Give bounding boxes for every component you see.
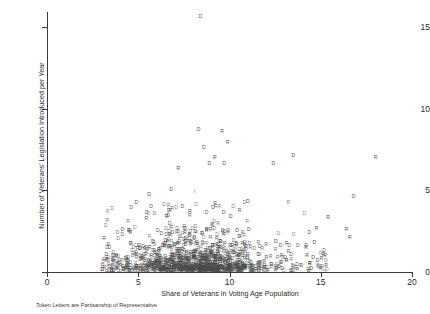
data-point-token: R — [305, 254, 309, 259]
data-point-token: D — [229, 215, 233, 220]
data-point-token: D — [168, 222, 172, 227]
data-point-token: R — [186, 257, 190, 262]
data-point-token: D — [115, 230, 119, 235]
data-point-token: D — [311, 255, 315, 260]
data-point-token: D — [208, 162, 212, 167]
data-point-token: D — [162, 202, 166, 207]
data-point-token: D — [320, 264, 324, 269]
x-tick-label: 0 — [45, 277, 50, 287]
plot-area: DRDRDDDDDDDRRRRDDRDRRRDDDDRDRDDDDRRDRDRR… — [47, 10, 413, 272]
data-point-token: D — [271, 162, 275, 167]
data-point-token: R — [287, 249, 291, 254]
data-point-token: R — [145, 217, 149, 222]
data-point-token: D — [288, 243, 292, 248]
data-point-token: D — [106, 258, 110, 263]
data-point-token: D — [256, 253, 260, 258]
data-point-token: D — [168, 265, 172, 270]
data-point-token: R — [223, 241, 227, 246]
data-point-token: D — [198, 15, 202, 20]
data-point-token: R — [184, 242, 188, 247]
data-point-token: R — [284, 259, 288, 264]
data-point-token: I — [194, 189, 195, 194]
data-point-token: D — [101, 259, 105, 264]
data-point-token: D — [214, 253, 218, 258]
x-axis-title: Share of Veterans in Voting Age Populati… — [47, 289, 413, 298]
data-point-token: R — [172, 243, 176, 248]
data-point-token: R — [374, 155, 378, 160]
data-token-layer: DRDRDDDDDDDRRRRDDRDRRRDDDDRDRDDDDRRDRDRR… — [47, 10, 413, 272]
data-point-token: D — [129, 205, 133, 210]
data-point-token: R — [276, 255, 280, 260]
data-point-token: R — [274, 247, 278, 252]
data-point-token: D — [265, 266, 269, 271]
data-point-token: R — [196, 243, 200, 248]
data-point-token: R — [213, 155, 217, 160]
data-point-token: R — [177, 167, 181, 172]
data-point-token: D — [253, 246, 257, 251]
data-point-token: D — [104, 224, 108, 229]
data-point-token: D — [117, 261, 121, 266]
data-point-token: D — [246, 199, 250, 204]
data-point-token: R — [231, 243, 235, 248]
data-point-token: R — [102, 236, 106, 241]
data-point-token: R — [126, 219, 130, 224]
data-point-token: R — [290, 258, 294, 263]
data-point-token: D — [121, 228, 125, 233]
data-point-token: D — [212, 226, 216, 231]
data-point-token: D — [352, 194, 356, 199]
data-point-token: D — [218, 257, 222, 262]
data-point-token: R — [147, 234, 151, 239]
data-point-token: D — [231, 205, 235, 210]
data-point-token: D — [133, 226, 137, 231]
data-point-token: R — [220, 129, 224, 134]
data-point-token: D — [226, 229, 230, 234]
data-point-token: R — [209, 235, 213, 240]
data-point-token: R — [115, 266, 119, 271]
data-point-token: D — [247, 227, 251, 232]
data-point-token: D — [153, 212, 157, 217]
data-point-token: R — [245, 220, 249, 225]
data-point-token: R — [209, 252, 213, 257]
data-point-token: D — [292, 154, 296, 159]
data-point-token: D — [307, 231, 311, 236]
x-tick-label: 15 — [316, 277, 325, 287]
data-point-token: D — [111, 250, 115, 255]
data-point-token: R — [244, 245, 248, 250]
data-point-token: D — [205, 210, 209, 215]
data-point-token: R — [175, 248, 179, 253]
data-point-token: D — [274, 240, 278, 245]
data-point-token: D — [197, 127, 201, 132]
x-tick-label: 5 — [136, 277, 141, 287]
y-axis-title: Number of Veterans' Legislation Introduc… — [37, 21, 46, 271]
data-point-token: D — [211, 244, 215, 249]
data-point-token: R — [106, 209, 110, 214]
data-point-token: D — [192, 249, 196, 254]
data-point-token: R — [218, 245, 222, 250]
data-point-token: R — [304, 245, 308, 250]
data-point-token: R — [181, 264, 185, 269]
data-point-token: D — [322, 249, 326, 254]
data-point-token: R — [257, 240, 261, 245]
data-point-token: R — [220, 264, 224, 269]
data-point-token: D — [167, 237, 171, 242]
data-point-token: D — [211, 206, 215, 211]
data-point-token: D — [309, 266, 313, 271]
chart-footnote: Token Letters are Partisanship of Repres… — [36, 302, 157, 308]
data-point-token: D — [120, 233, 124, 238]
data-point-token: D — [202, 145, 206, 150]
data-point-token: D — [105, 246, 109, 251]
data-point-token: D — [279, 244, 283, 249]
data-point-token: R — [226, 141, 230, 146]
data-point-token: D — [129, 241, 133, 246]
data-point-token: R — [264, 243, 268, 248]
y-tick-label: 15 — [394, 22, 430, 32]
data-point-token: R — [183, 231, 187, 236]
data-point-token: D — [147, 193, 151, 198]
data-point-token: R — [206, 266, 210, 271]
data-point-token: D — [277, 232, 281, 237]
x-tick-label: 10 — [225, 277, 234, 287]
data-point-token: R — [238, 208, 242, 213]
data-point-token: D — [302, 212, 306, 217]
data-point-token: D — [149, 205, 153, 210]
data-point-token: D — [188, 234, 192, 239]
